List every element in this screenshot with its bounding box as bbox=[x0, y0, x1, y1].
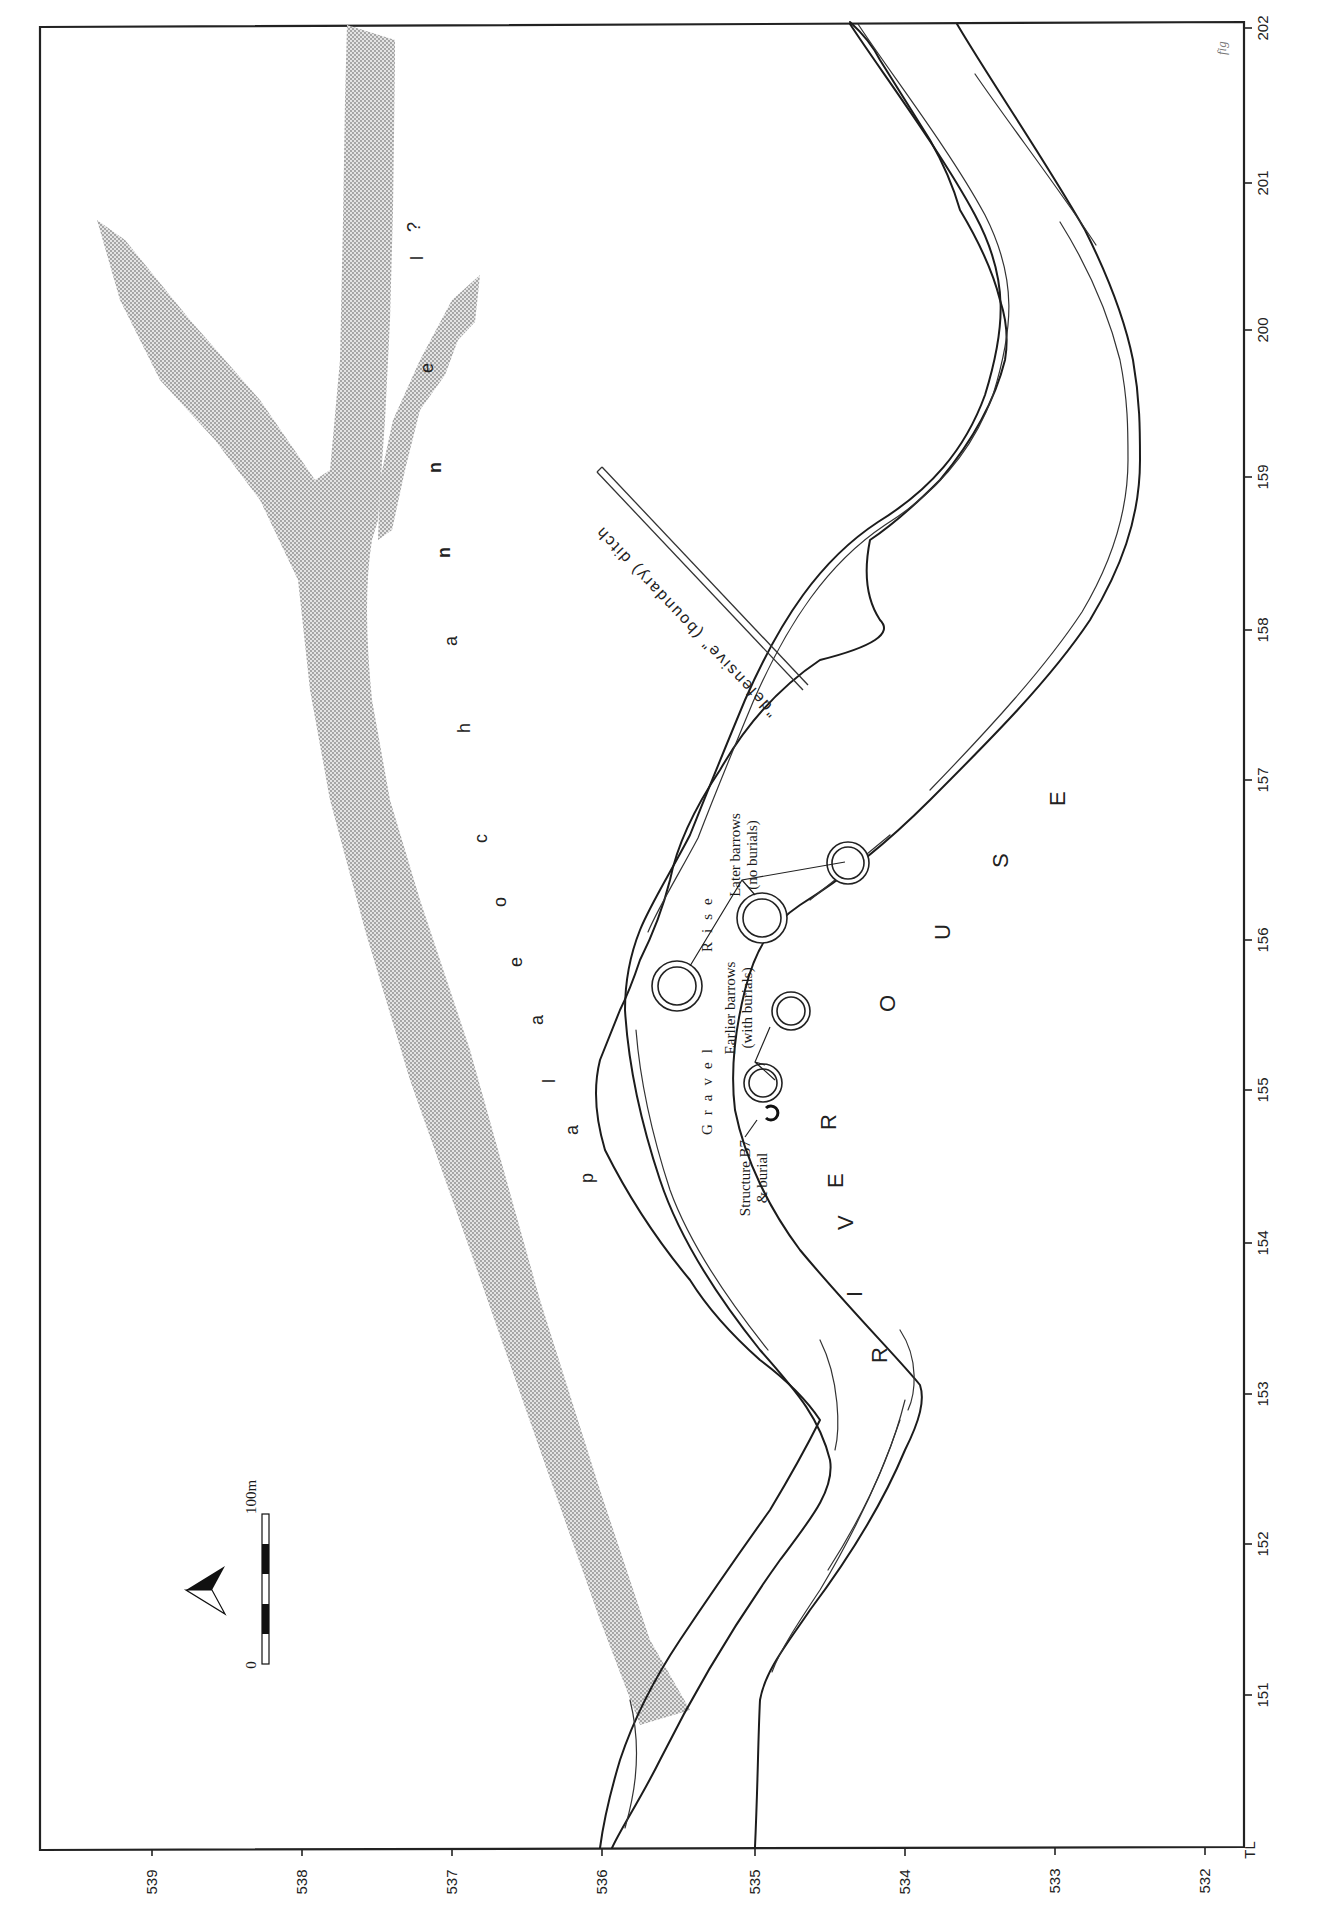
svg-text:E: E bbox=[1045, 791, 1070, 806]
river-banks bbox=[612, 24, 1140, 1848]
right-axis: 202 201 200 159 158 157 156 155 154 153 … bbox=[1244, 15, 1271, 1707]
tick-label-532: 532 bbox=[1196, 1868, 1213, 1893]
gravel-rise-barrow bbox=[652, 961, 702, 1011]
tick-label-533: 533 bbox=[1046, 1868, 1063, 1893]
svg-text:c: c bbox=[471, 834, 491, 843]
svg-text:l: l bbox=[539, 1079, 559, 1083]
tick-label-535: 535 bbox=[746, 1869, 763, 1894]
tick-label-152: 152 bbox=[1254, 1531, 1271, 1556]
tick-label-201: 201 bbox=[1254, 170, 1271, 195]
svg-text:U: U bbox=[930, 924, 955, 940]
ditch-label: "defensive" (boundary) ditch bbox=[592, 523, 780, 720]
tick-label-536: 536 bbox=[593, 1869, 610, 1894]
gravel-label: Gravel bbox=[699, 1040, 715, 1135]
tick-label-154: 154 bbox=[1254, 1230, 1271, 1255]
palaeochannel-area bbox=[97, 25, 690, 1725]
svg-text:S: S bbox=[988, 853, 1013, 868]
svg-text:a: a bbox=[441, 635, 461, 646]
svg-text:h: h bbox=[454, 723, 474, 733]
tick-label-539: 539 bbox=[143, 1869, 160, 1894]
later-barrows-label: Later barrows bbox=[727, 813, 743, 897]
grid-corner-label: TL bbox=[1241, 1841, 1258, 1859]
tick-label-200: 200 bbox=[1254, 317, 1271, 342]
earlier-barrows-label: Earlier barrows bbox=[722, 961, 738, 1054]
svg-text:E: E bbox=[823, 1173, 848, 1188]
tick-label-537: 537 bbox=[443, 1869, 460, 1894]
tick-label-159: 159 bbox=[1254, 464, 1271, 489]
svg-text:V: V bbox=[833, 1215, 858, 1230]
earlier-barrows-sublabel: (with burials) bbox=[739, 967, 756, 1048]
tick-label-156: 156 bbox=[1254, 927, 1271, 952]
svg-text:n: n bbox=[434, 547, 454, 558]
rise-label: Rise bbox=[699, 889, 715, 952]
map-labels: Later barrows (no burials) Earlier barro… bbox=[592, 523, 780, 1216]
structure-b7-label: Structure B7 bbox=[737, 1139, 753, 1216]
tick-label-202: 202 bbox=[1254, 15, 1271, 40]
svg-text:R: R bbox=[816, 1114, 841, 1130]
svg-text:a: a bbox=[562, 1124, 582, 1135]
archaeological-site-map: Later barrows (no burials) Earlier barro… bbox=[0, 0, 1320, 1907]
structure-b7-icon bbox=[766, 1106, 778, 1120]
sheet-mark: fig bbox=[1214, 41, 1229, 55]
svg-text:e: e bbox=[506, 957, 526, 967]
scale-bar: 0 100m bbox=[243, 1480, 269, 1669]
later-barrow-1 bbox=[737, 893, 787, 943]
tick-label-157: 157 bbox=[1254, 767, 1271, 792]
tick-label-153: 153 bbox=[1254, 1381, 1271, 1406]
svg-text:p: p bbox=[577, 1173, 597, 1183]
north-arrow-icon bbox=[186, 1566, 225, 1614]
tick-label-534: 534 bbox=[896, 1869, 913, 1894]
svg-text:?: ? bbox=[404, 222, 424, 232]
svg-text:I: I bbox=[842, 1291, 867, 1297]
scale-start-label: 0 bbox=[243, 1661, 259, 1669]
later-barrows-sublabel: (no burials) bbox=[744, 820, 761, 890]
map-frame bbox=[40, 22, 1244, 1850]
tick-label-151: 151 bbox=[1254, 1682, 1271, 1707]
boundary-ditch bbox=[597, 467, 808, 690]
structure-b7-sublabel: & burial bbox=[754, 1153, 770, 1203]
later-barrow-2 bbox=[827, 842, 869, 884]
svg-text:e: e bbox=[417, 363, 437, 373]
svg-text:n: n bbox=[425, 462, 445, 473]
tick-label-158: 158 bbox=[1254, 617, 1271, 642]
tick-label-155: 155 bbox=[1254, 1077, 1271, 1102]
svg-text:O: O bbox=[875, 995, 900, 1012]
barrows bbox=[652, 842, 869, 1137]
svg-text:a: a bbox=[527, 1014, 547, 1025]
tick-label-538: 538 bbox=[293, 1869, 310, 1894]
structure-b7-leader bbox=[745, 1120, 757, 1137]
svg-text:R: R bbox=[867, 1347, 892, 1363]
svg-text:o: o bbox=[490, 897, 510, 907]
svg-text:l: l bbox=[407, 256, 427, 260]
scale-end-label: 100m bbox=[243, 1480, 259, 1515]
earlier-barrow-1 bbox=[772, 992, 810, 1030]
